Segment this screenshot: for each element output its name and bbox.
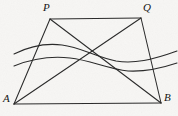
paper-grain-overlay (0, 0, 178, 116)
vertex-label-Q: Q (143, 2, 151, 13)
vertex-label-A: A (3, 93, 10, 104)
figure-canvas (0, 0, 178, 116)
geometry-figure: P Q A B (0, 0, 178, 116)
vertex-label-B: B (164, 92, 171, 103)
vertex-label-P: P (43, 2, 50, 13)
